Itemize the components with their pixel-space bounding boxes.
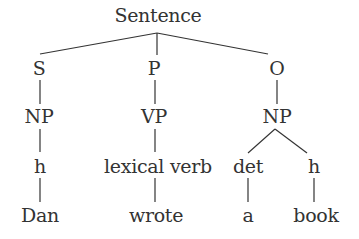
- node-a: a: [242, 204, 253, 226]
- node-vp: VP: [141, 105, 167, 127]
- node-sentence: Sentence: [114, 4, 201, 26]
- node-book: book: [293, 204, 338, 226]
- edge-sentence-o: [157, 33, 268, 54]
- node-dan: Dan: [21, 204, 59, 226]
- node-h-subject: h: [34, 155, 46, 177]
- edge-np-h2: [275, 129, 307, 153]
- node-wrote: wrote: [129, 204, 183, 226]
- node-det: det: [233, 155, 263, 177]
- node-o: O: [269, 57, 284, 79]
- syntax-tree-diagram: Sentence S P O NP VP NP h lexical verb d…: [0, 0, 359, 239]
- edge-sentence-s: [40, 33, 157, 54]
- node-p: P: [148, 57, 160, 79]
- node-np-subject: NP: [25, 105, 54, 127]
- edge-np-det: [248, 129, 275, 153]
- node-s: S: [33, 57, 46, 79]
- node-h-object: h: [308, 155, 320, 177]
- node-lexical-verb: lexical verb: [104, 155, 212, 177]
- node-np-object: NP: [263, 105, 292, 127]
